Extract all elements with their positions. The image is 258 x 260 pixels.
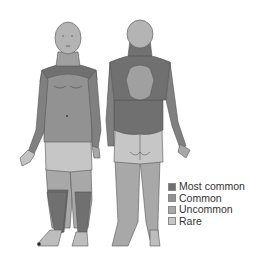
- legend-label: Rare: [179, 216, 202, 227]
- back-center-patch: [126, 65, 154, 100]
- back-head: [127, 20, 153, 48]
- legend-item-rare: Rare: [168, 216, 245, 227]
- front-head: [55, 22, 81, 54]
- front-right-hand: [92, 146, 100, 158]
- swatch-most-common: [168, 183, 176, 191]
- legend-item-uncommon: Uncommon: [168, 204, 245, 215]
- front-left-foot: [38, 230, 62, 246]
- front-hips: [45, 140, 92, 172]
- legend-label: Uncommon: [179, 204, 233, 215]
- swatch-common: [168, 194, 176, 202]
- legend-label: Common: [179, 193, 222, 204]
- swatch-rare: [168, 217, 176, 225]
- legend-item-most-common: Most common: [168, 181, 245, 192]
- legend: Most common Common Uncommon Rare: [168, 181, 245, 227]
- swatch-uncommon: [168, 206, 176, 214]
- front-right-foot: [72, 232, 88, 246]
- front-torso: [44, 72, 92, 142]
- front-figure: [20, 22, 101, 246]
- legend-label: Most common: [179, 181, 245, 192]
- back-right-arm: [166, 62, 186, 148]
- legend-item-common: Common: [168, 193, 245, 204]
- front-left-hand: [20, 150, 35, 166]
- back-right-leg: [140, 160, 160, 240]
- back-left-leg: [112, 160, 140, 246]
- back-lower-back: [114, 100, 163, 135]
